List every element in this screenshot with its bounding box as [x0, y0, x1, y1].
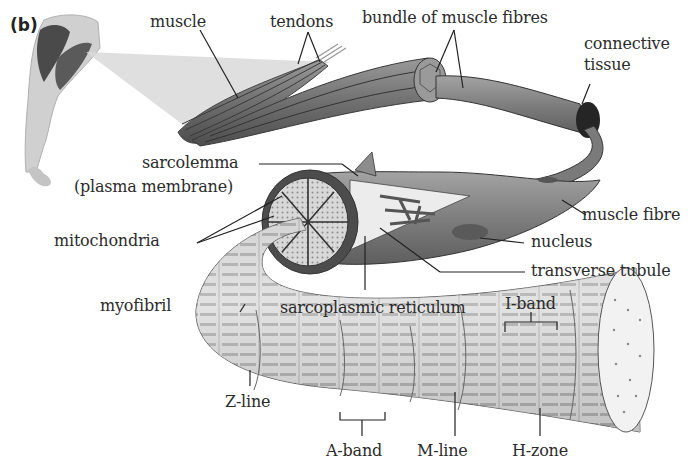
label-h-zone: H-zone — [512, 443, 568, 459]
label-muscle-fibre: muscle fibre — [582, 207, 680, 223]
label-i-band: I-band — [505, 296, 556, 312]
label-transverse-tubule: transverse tubule — [531, 263, 671, 279]
muscle-fibre-section — [262, 152, 600, 274]
arm-illustration — [25, 15, 100, 186]
label-a-band: A-band — [326, 443, 382, 459]
label-mitochondria: mitochondria — [54, 233, 160, 249]
label-muscle: muscle — [150, 14, 206, 30]
panel-label: (b) — [10, 15, 38, 35]
label-bundle-of-muscle-fibres: bundle of muscle fibres — [362, 10, 548, 26]
label-tendons: tendons — [270, 14, 333, 30]
muscle-structure-diagram: (b) muscle tendons bundle of muscle fibr… — [0, 0, 698, 465]
label-tissue: tissue — [584, 57, 631, 73]
label-sarcoplasmic-reticulum: sarcoplasmic reticulum — [280, 300, 466, 316]
label-z-line: Z-line — [225, 394, 270, 410]
label-nucleus: nucleus — [531, 234, 592, 250]
label-connective: connective — [584, 36, 670, 52]
label-sarcolemma: sarcolemma — [142, 155, 238, 171]
label-plasma-membrane: (plasma membrane) — [74, 179, 233, 195]
label-m-line: M-line — [417, 443, 468, 459]
label-myofibril: myofibril — [100, 298, 171, 314]
